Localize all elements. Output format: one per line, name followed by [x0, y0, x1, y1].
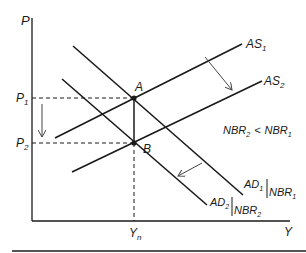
ad1-curve — [73, 46, 243, 195]
asad-diagram: P Y P1 P2 Yn A B AS1 AS2 NBR2<NBR1 AD1 N… — [0, 0, 306, 253]
as1-label: AS1 — [245, 37, 266, 53]
as-shift-arrow — [205, 57, 232, 90]
point-b-label: B — [143, 142, 151, 156]
p1-label: P1 — [16, 91, 28, 107]
ad-shift-arrow — [178, 163, 202, 176]
ad2-label: AD2 — [209, 196, 229, 210]
point-a — [131, 95, 136, 100]
point-a-label: A — [134, 80, 143, 94]
y-axis-label: P — [21, 13, 30, 28]
as1-curve — [55, 44, 242, 138]
ad2-condition: NBR2 — [234, 204, 261, 218]
as2-label: AS2 — [263, 74, 285, 90]
p2-label: P2 — [16, 136, 29, 152]
nbr-annotation: NBR2<NBR1 — [223, 124, 292, 138]
ad1-label: AD1 — [243, 178, 263, 192]
point-b — [131, 140, 136, 145]
x-axis-label: Y — [284, 225, 293, 239]
ad1-condition: NBR1 — [269, 186, 296, 200]
yn-label: Yn — [129, 226, 142, 242]
